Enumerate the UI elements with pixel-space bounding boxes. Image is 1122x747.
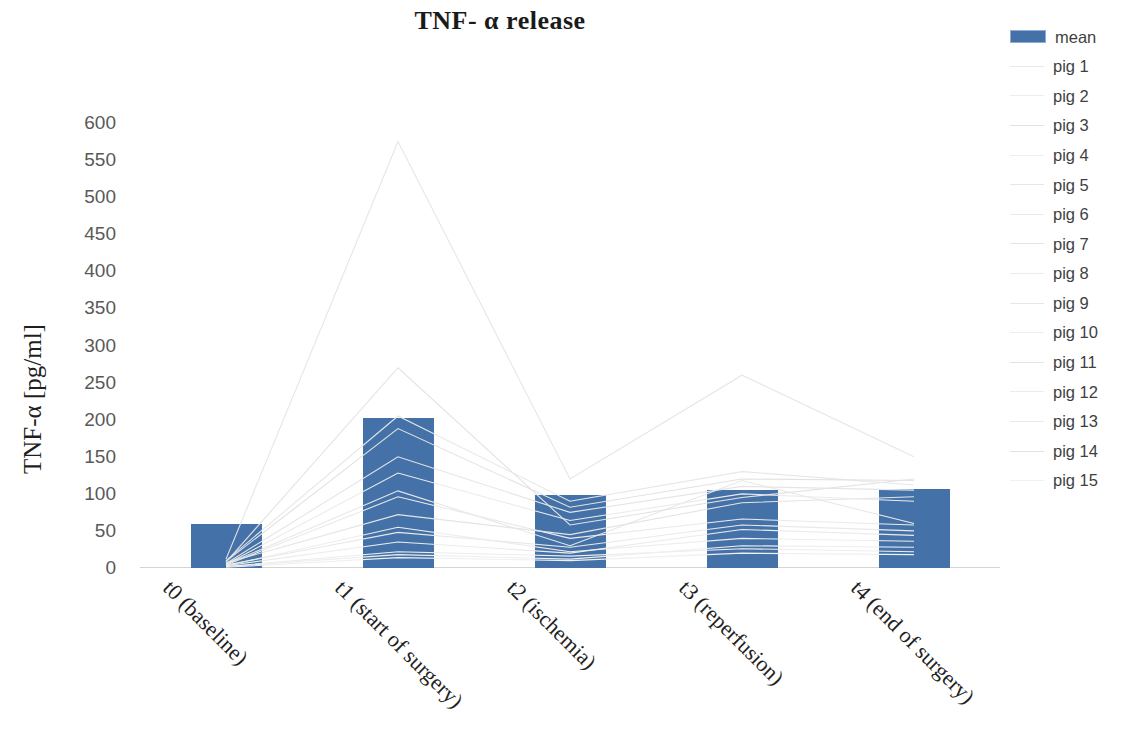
legend-item: pig 11 [1010,348,1122,378]
y-axis-tick-label: 0 [46,557,116,579]
legend-swatch-mean [1010,30,1046,43]
legend-swatch-line [1010,243,1044,244]
legend-label: pig 3 [1053,117,1089,134]
x-axis-tick-label: t4 (end of surgery) [846,575,980,709]
x-axis-tick-label: t1 (start of surgery) [330,575,469,714]
legend-swatch-line [1010,332,1044,333]
y-axis-tick-label: 250 [46,372,116,394]
y-axis-tick-label: 150 [46,446,116,468]
legend-swatch-line [1010,273,1044,274]
y-axis-tick-label: 50 [46,520,116,542]
pig-line [226,429,914,562]
legend-swatch-line [1010,95,1044,96]
legend-item: pig 7 [1010,229,1122,259]
legend-item: pig 8 [1010,259,1122,289]
y-axis-tick-label: 200 [46,409,116,431]
legend-label: pig 14 [1053,443,1098,460]
legend-swatch-line [1010,480,1044,481]
y-axis-tick-label: 600 [46,112,116,134]
legend-swatch-line [1010,303,1044,304]
chart-title: TNF- α release [0,6,1000,36]
legend-item: pig 6 [1010,200,1122,230]
legend-item: pig 9 [1010,288,1122,318]
y-axis-title: TNF-α [pg/ml] [19,249,47,549]
legend-item: pig 2 [1010,81,1122,111]
legend-label: pig 9 [1053,295,1089,312]
legend-label: pig 5 [1053,177,1089,194]
y-axis-tick-label: 450 [46,223,116,245]
pig-line [226,368,914,562]
legend-swatch-line [1010,66,1044,67]
pig-line [226,553,914,567]
legend-item: pig 12 [1010,377,1122,407]
y-axis-tick-label: 100 [46,483,116,505]
legend-swatch-line [1010,184,1044,185]
legend-label: pig 4 [1053,147,1089,164]
legend-label: pig 13 [1053,413,1098,430]
legend-swatch-line [1010,214,1044,215]
y-axis-tick-label: 400 [46,260,116,282]
legend-item: pig 15 [1010,466,1122,496]
legend-item: pig 1 [1010,52,1122,82]
legend-item: mean [1010,22,1122,52]
legend-item: pig 14 [1010,436,1122,466]
legend-label: pig 8 [1053,265,1089,282]
pig-line [226,473,914,564]
legend-swatch-line [1010,421,1044,422]
x-axis-tick-label: t3 (reperfusion) [674,575,790,691]
legend-label: pig 7 [1053,236,1089,253]
y-axis-tick-label: 550 [46,149,116,171]
x-axis-tick-label: t0 (baseline) [158,575,254,671]
y-axis-tick-label: 300 [46,335,116,357]
legend-label: pig 11 [1053,354,1097,371]
y-axis-tick-label: 350 [46,297,116,319]
legend-label: pig 1 [1053,58,1089,75]
legend-label: pig 6 [1053,206,1089,223]
plot-area [140,123,1000,568]
legend-label: pig 10 [1053,324,1098,341]
legend-label: pig 12 [1053,384,1098,401]
legend-swatch-line [1010,391,1044,392]
legend-swatch-line [1010,155,1044,156]
chart-legend: meanpig 1pig 2pig 3pig 4pig 5pig 6pig 7p… [1010,22,1122,496]
legend-label: mean [1055,29,1096,46]
legend-item: pig 13 [1010,407,1122,437]
legend-item: pig 4 [1010,140,1122,170]
legend-item: pig 5 [1010,170,1122,200]
chart-container: TNF- α release TNF-α [pg/ml] 05010015020… [0,0,1122,747]
legend-item: pig 3 [1010,111,1122,141]
y-axis-tick-label: 500 [46,186,116,208]
legend-swatch-line [1010,451,1044,452]
legend-label: pig 15 [1053,472,1098,489]
legend-item: pig 10 [1010,318,1122,348]
legend-swatch-line [1010,362,1044,363]
legend-label: pig 2 [1053,88,1089,105]
x-axis-tick-label: t2 (ischemia) [502,575,602,675]
legend-swatch-line [1010,125,1044,126]
pig-line-series-overlay [140,123,1000,568]
